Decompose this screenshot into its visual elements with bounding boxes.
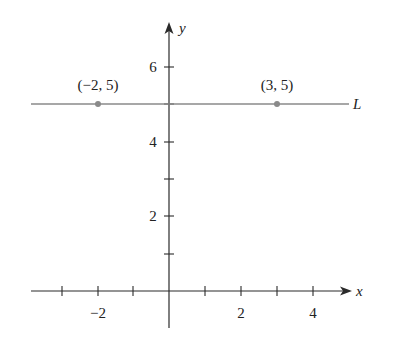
y-tick-label: 4	[149, 134, 157, 150]
coordinate-plane: (−2, 5) (3, 5) L x y −2 2 4 2 4 6	[0, 0, 396, 344]
point-label-b: (3, 5)	[261, 77, 294, 94]
y-tick-label: 2	[149, 208, 157, 224]
x-tick-label: −2	[90, 305, 106, 321]
point-neg2-5	[95, 101, 101, 107]
point-label-a: (−2, 5)	[78, 77, 119, 94]
x-tick-label: 2	[237, 305, 245, 321]
x-tick-label: 4	[309, 305, 317, 321]
x-axis-label: x	[355, 283, 363, 299]
line-label: L	[352, 96, 361, 112]
y-tick-label: 6	[149, 59, 157, 75]
chart-figure: (−2, 5) (3, 5) L x y −2 2 4 2 4 6	[0, 0, 396, 344]
y-axis-label: y	[177, 20, 186, 36]
point-3-5	[274, 101, 280, 107]
